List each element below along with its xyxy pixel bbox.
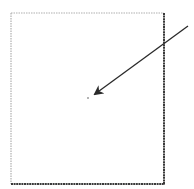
center-point <box>87 97 89 99</box>
pointer-arrow <box>95 26 188 94</box>
diagram-canvas <box>0 0 194 189</box>
